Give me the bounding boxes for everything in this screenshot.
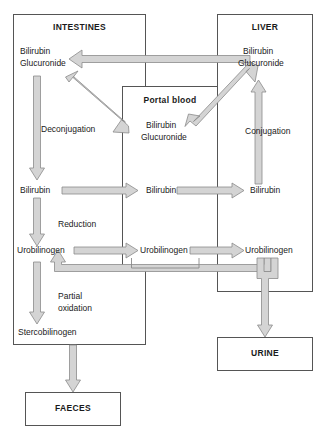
- intestines-bilirubin-glucuronide-line1: Bilirubin: [20, 46, 50, 57]
- portal-urobilinogen: Urobilinogen: [140, 245, 188, 256]
- portal-bilirubin: Bilirubin: [146, 185, 176, 196]
- liver-title: LIVER: [217, 22, 313, 33]
- stercobilinogen-to-faeces-arrow: [66, 345, 81, 392]
- faeces-title: FAECES: [25, 403, 121, 414]
- liver-urobilinogen: Urobilinogen: [245, 245, 293, 256]
- liver-bilirubin: Bilirubin: [250, 185, 280, 196]
- bilirubin-metabolism-diagram: .bx{fill:#ffffff;stroke:#555555;stroke-w…: [0, 0, 326, 428]
- intestines-title: INTESTINES: [13, 22, 146, 33]
- portal-blood-title: Portal blood: [122, 95, 218, 106]
- intestines-stercobilinogen: Stercobilinogen: [18, 327, 77, 338]
- liver-bilirubin-glucuronide-line2: Glucuronide: [238, 58, 284, 69]
- partial-oxidation-label-line1: Partial: [58, 291, 82, 302]
- intestines-bilirubin: Bilirubin: [20, 185, 50, 196]
- intestines-urobilinogen: Urobilinogen: [17, 245, 65, 256]
- deconjugation-label: Deconjugation: [41, 124, 95, 135]
- reduction-label: Reduction: [58, 219, 96, 230]
- portal-bilirubin-glucuronide-line1: Bilirubin: [146, 120, 176, 131]
- portal-bilirubin-glucuronide-line2: Glucuronide: [141, 132, 187, 143]
- partial-oxidation-label-line2: oxidation: [58, 303, 92, 314]
- intestines-bilirubin-glucuronide-line2: Glucuronide: [20, 58, 66, 69]
- urine-title: URINE: [217, 348, 313, 359]
- liver-bilirubin-glucuronide-line1: Bilirubin: [243, 46, 273, 57]
- conjugation-label: Conjugation: [245, 126, 290, 137]
